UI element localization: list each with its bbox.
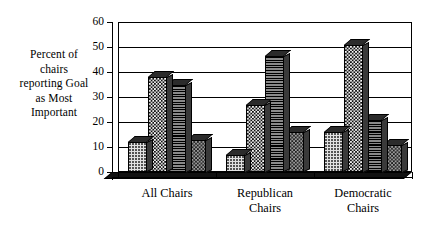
bar-front-face (324, 132, 343, 172)
x-tick-mark (118, 172, 119, 179)
bar-chart: Percent of chairs reporting Goal as Most… (0, 0, 428, 244)
y-tick-label: 50 (78, 40, 104, 52)
bar-side-face (343, 129, 349, 172)
y-tick-label: 60 (78, 15, 104, 27)
bar-side-face (167, 74, 173, 172)
bar (226, 155, 245, 173)
axis-baseline-front (112, 177, 412, 178)
bar (128, 142, 147, 172)
bar-side-face (382, 117, 388, 172)
bar-front-face (128, 142, 147, 172)
y-tick-label: 20 (78, 115, 104, 127)
x-category-label: DemocraticChairs (301, 186, 425, 216)
x-category-label-line: Chairs (301, 201, 425, 216)
bar-side-face (304, 129, 310, 172)
plot-area (118, 22, 412, 172)
y-tick-label: 10 (78, 140, 104, 152)
x-tick-mark (216, 172, 217, 179)
bar-front-face (226, 155, 245, 173)
bar-side-face (206, 137, 212, 172)
bar-side-face (147, 139, 153, 172)
x-tick-mark (412, 172, 413, 179)
y-tick-label: 40 (78, 65, 104, 77)
y-axis-line (112, 22, 113, 180)
x-category-label-line: Democratic (301, 186, 425, 201)
bar-side-face (284, 53, 290, 172)
bar-side-face (265, 102, 271, 172)
bar-side-face (186, 82, 192, 172)
bar (324, 132, 343, 172)
x-tick-mark (314, 172, 315, 179)
bar-side-face (363, 42, 369, 172)
bar-side-face (245, 152, 251, 172)
bar-side-face (402, 142, 408, 172)
y-tick-label: 0 (78, 165, 104, 177)
y-tick-label: 30 (78, 90, 104, 102)
